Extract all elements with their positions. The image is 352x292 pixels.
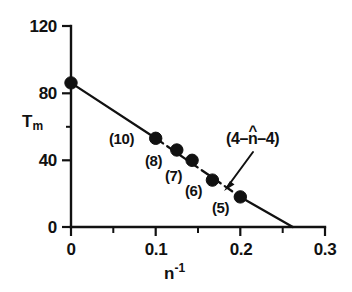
x-axis-title-base: n (164, 264, 174, 283)
point-label-5: (5) (212, 200, 229, 215)
x-tick-label-0.3: 0.3 (302, 241, 348, 258)
y-axis-title: Tm (22, 113, 43, 130)
data-point-10 (150, 132, 162, 144)
x-tick-label-0.1: 0.1 (133, 241, 179, 258)
y-tick-label-80: 80 (12, 85, 57, 102)
data-point-5 (234, 191, 246, 203)
x-axis-title-exponent: -1 (174, 261, 185, 275)
x-tick-label-0.2: 0.2 (218, 241, 264, 258)
data-point-6 (206, 174, 218, 186)
y-tick-label-120: 120 (12, 18, 57, 35)
data-point-intercept (65, 77, 77, 89)
annotation-hat-char: ^n (248, 131, 257, 147)
chart-figure: 120 80 40 0 0 0.1 0.2 0.3 Tm n-1 (10) (8… (0, 0, 352, 292)
y-tick-label-0: 0 (12, 219, 57, 236)
y-axis-title-subscript: m (32, 119, 43, 133)
data-point-7 (186, 154, 198, 166)
annotation-arrow-shaft (228, 152, 253, 186)
annotation-hat-mark: ^ (248, 123, 256, 138)
y-tick-label-40: 40 (12, 152, 57, 169)
data-point-8 (171, 144, 183, 156)
annotation-suffix: –4) (257, 130, 279, 147)
y-axis-title-base: T (22, 112, 32, 131)
point-label-6: (6) (185, 183, 202, 198)
x-axis-title: n-1 (164, 265, 185, 282)
point-label-7: (7) (165, 168, 182, 183)
fit-line-lower-segment (240, 197, 292, 227)
x-tick-label-0: 0 (51, 241, 91, 258)
annotation-prefix: (4– (226, 130, 248, 147)
point-label-10: (10) (109, 131, 134, 146)
series-annotation-4n4: (4–^n–4) (226, 131, 279, 147)
point-label-8: (8) (145, 153, 162, 168)
